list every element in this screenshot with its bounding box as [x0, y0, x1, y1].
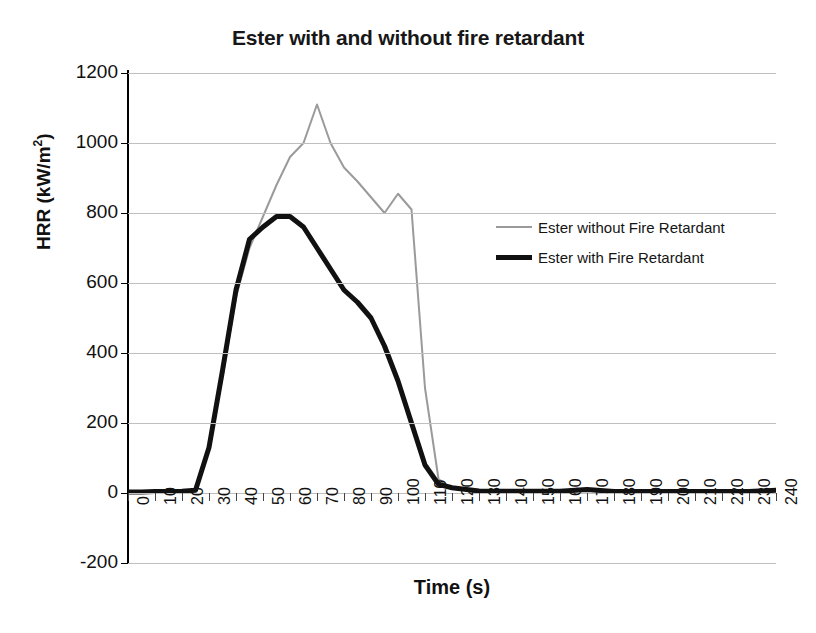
legend-line-icon — [496, 226, 532, 228]
x-tick-mark — [128, 493, 129, 501]
x-tick-label: 180 — [621, 478, 639, 505]
x-tick-mark — [344, 493, 345, 501]
x-tick-label: 190 — [648, 478, 666, 505]
legend-item[interactable]: Ester without Fire Retardant — [496, 212, 796, 242]
x-tick-mark — [506, 493, 507, 501]
x-tick-mark — [452, 493, 453, 501]
y-tick-label: -200 — [12, 551, 118, 573]
x-tick-mark — [290, 493, 291, 501]
x-tick-label: 50 — [270, 487, 288, 505]
chart-container: Ester with and without fire retardant HR… — [0, 0, 816, 633]
x-tick-mark — [209, 493, 210, 501]
chart-legend: Ester without Fire RetardantEster with F… — [496, 212, 796, 272]
x-tick-mark — [776, 493, 777, 501]
x-axis-label: Time (s) — [128, 576, 776, 599]
gridline — [128, 283, 776, 284]
x-tick-mark — [236, 493, 237, 501]
x-tick-mark — [182, 493, 183, 501]
x-tick-label: 120 — [459, 478, 477, 505]
legend-label: Ester without Fire Retardant — [538, 219, 725, 236]
gridline — [128, 143, 776, 144]
x-tick-label: 0 — [135, 496, 153, 505]
x-tick-mark — [722, 493, 723, 501]
x-tick-mark — [425, 493, 426, 501]
x-tick-mark — [371, 493, 372, 501]
series-line — [128, 105, 776, 492]
x-tick-label: 20 — [189, 487, 207, 505]
y-tick-label: 1200 — [12, 61, 118, 83]
gridline — [128, 423, 776, 424]
legend-item[interactable]: Ester with Fire Retardant — [496, 242, 796, 272]
x-axis-tick-labels: 0102030405060708090100110120130140150160… — [128, 505, 808, 575]
y-tick-label: 800 — [12, 201, 118, 223]
legend-line-icon — [496, 255, 532, 260]
y-tick-label: 400 — [12, 341, 118, 363]
x-tick-label: 140 — [513, 478, 531, 505]
x-tick-label: 220 — [729, 478, 747, 505]
x-tick-mark — [641, 493, 642, 501]
x-tick-label: 100 — [405, 478, 423, 505]
x-tick-mark — [317, 493, 318, 501]
x-tick-label: 160 — [567, 478, 585, 505]
x-tick-label: 200 — [675, 478, 693, 505]
x-tick-mark — [398, 493, 399, 501]
x-tick-label: 230 — [756, 478, 774, 505]
x-tick-mark — [614, 493, 615, 501]
x-tick-label: 110 — [432, 479, 450, 505]
y-axis-tick-labels: 120010008006004002000-200 — [0, 0, 118, 633]
x-tick-mark — [668, 493, 669, 501]
legend-label: Ester with Fire Retardant — [538, 249, 704, 266]
x-tick-label: 80 — [351, 487, 369, 505]
x-tick-mark — [479, 493, 480, 501]
x-tick-mark — [587, 493, 588, 501]
x-tick-label: 90 — [378, 487, 396, 505]
y-tick-label: 0 — [12, 481, 118, 503]
y-tick-label: 1000 — [12, 131, 118, 153]
x-tick-label: 170 — [594, 478, 612, 505]
x-tick-mark — [533, 493, 534, 501]
x-tick-mark — [560, 493, 561, 501]
x-tick-label: 210 — [702, 478, 720, 505]
x-tick-mark — [155, 493, 156, 501]
x-tick-mark — [263, 493, 264, 501]
x-tick-label: 10 — [162, 487, 180, 505]
x-tick-label: 130 — [486, 478, 504, 505]
gridline — [128, 353, 776, 354]
gridline — [128, 73, 776, 74]
x-tick-mark — [749, 493, 750, 501]
x-tick-label: 40 — [243, 487, 261, 505]
x-tick-mark — [695, 493, 696, 501]
x-tick-label: 240 — [783, 478, 801, 505]
y-tick-label: 600 — [12, 271, 118, 293]
chart-title: Ester with and without fire retardant — [0, 26, 816, 50]
x-tick-label: 60 — [297, 487, 315, 505]
x-tick-label: 150 — [540, 478, 558, 505]
y-tick-label: 200 — [12, 411, 118, 433]
x-tick-label: 70 — [324, 487, 342, 505]
x-tick-label: 30 — [216, 487, 234, 505]
